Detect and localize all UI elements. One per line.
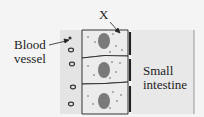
- label-small-intestine-line2: intestine: [143, 78, 187, 92]
- label-small-intestine-line1: Small: [143, 64, 173, 78]
- label-blood-vessel-line1: Blood: [14, 38, 46, 52]
- label-blood-vessel-line2: vessel: [14, 52, 46, 66]
- blood-vessel-region: [60, 30, 82, 114]
- nuclei: [98, 33, 110, 109]
- label-x: X: [99, 8, 108, 22]
